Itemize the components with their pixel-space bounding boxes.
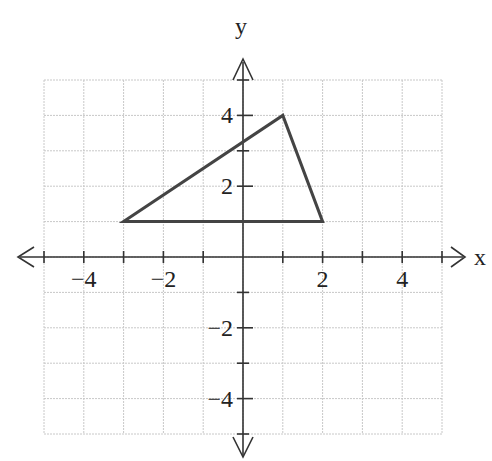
x-tick-label: 4 <box>396 266 408 292</box>
y-axis-label: y <box>235 13 247 39</box>
x-tick-label: −4 <box>71 266 97 292</box>
y-tick-label: −2 <box>207 315 233 341</box>
y-tick-label: 2 <box>221 173 233 199</box>
x-tick-label: 2 <box>317 266 329 292</box>
y-tick-label: −4 <box>207 386 233 412</box>
triangle <box>124 115 323 221</box>
coordinate-plane: −4−22442−2−4 x y <box>0 0 492 461</box>
axes <box>18 59 465 457</box>
x-tick-label: −2 <box>151 266 177 292</box>
y-tick-label: 4 <box>221 102 233 128</box>
x-axis-label: x <box>474 244 486 270</box>
